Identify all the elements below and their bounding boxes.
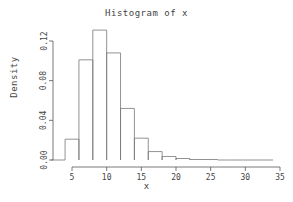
y-tick-label: 0.08 [40, 71, 49, 90]
x-tick-label: 5 [70, 173, 75, 182]
x-tick-label: 10 [102, 173, 112, 182]
histogram-plot: Histogram of x Density x 0.000.040.080.1… [0, 0, 293, 202]
x-tick-label: 35 [275, 173, 285, 182]
bar-series [51, 30, 273, 160]
histogram-bar [134, 138, 148, 160]
histogram-bar [65, 139, 79, 160]
x-axis [72, 167, 280, 171]
histogram-bar [148, 152, 162, 160]
x-tick-label: 15 [137, 173, 147, 182]
histogram-bar [107, 53, 121, 160]
y-tick-label: 0.12 [40, 31, 49, 50]
x-tick-label: 30 [241, 173, 251, 182]
y-tick-label: 0.00 [40, 150, 49, 169]
histogram-bar [79, 60, 93, 160]
plot-canvas: 0.000.040.080.12 5101520253035 [0, 0, 293, 202]
histogram-bar [93, 30, 107, 160]
x-tick-label: 25 [206, 173, 216, 182]
histogram-bar [121, 108, 135, 160]
y-tick-labels: 0.000.040.080.12 [40, 31, 49, 169]
x-tick-labels: 5101520253035 [70, 173, 285, 182]
histogram-bar [176, 159, 190, 160]
y-axis [49, 41, 53, 160]
histogram-bar [162, 157, 176, 160]
y-tick-label: 0.04 [40, 111, 49, 130]
x-tick-label: 20 [171, 173, 181, 182]
